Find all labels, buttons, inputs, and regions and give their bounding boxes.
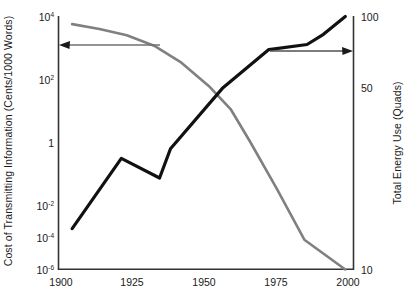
y-left-tick-1: 1 <box>18 137 54 149</box>
chart-plot-area <box>0 0 407 298</box>
y-left-tick-10e2: 102 <box>18 74 54 86</box>
chart-figure: Cost of Transmitting Information (Cents/… <box>0 0 407 298</box>
y-left-tick-10e-6: 10-6 <box>18 264 54 276</box>
x-axis-tick-2000: 2000 <box>326 276 370 288</box>
series-line-energy <box>72 17 345 229</box>
y-axis-right-title: Total Energy Use (Quads) <box>391 0 407 292</box>
y-right-tick-10: 10 <box>361 264 395 276</box>
y-right-tick-100: 100 <box>361 11 395 23</box>
series-line-cost <box>72 24 345 269</box>
y-axis-left-title: Cost of Transmitting Information (Cents/… <box>2 0 18 290</box>
x-axis-tick-1975: 1975 <box>254 276 298 288</box>
x-axis-tick-1950: 1950 <box>182 276 226 288</box>
y-left-tick-10e-2: 10-2 <box>18 200 54 212</box>
x-axis-tick-1900: 1900 <box>39 276 83 288</box>
y-left-tick-10e-4: 10-4 <box>18 232 54 244</box>
x-axis-tick-1925: 1925 <box>110 276 154 288</box>
y-left-tick-10e4: 104 <box>18 11 54 23</box>
y-right-tick-50: 50 <box>361 82 395 94</box>
